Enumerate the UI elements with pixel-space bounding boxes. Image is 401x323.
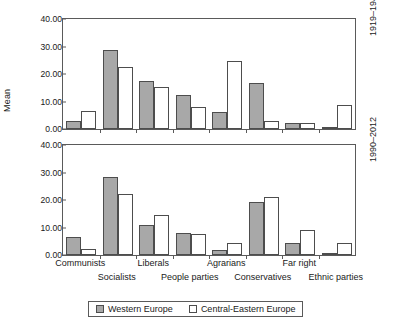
legend-swatch-icon-western	[96, 305, 104, 313]
bar-group	[136, 19, 173, 129]
bar	[139, 225, 154, 255]
bar	[66, 237, 81, 255]
x-axis-label: Far right	[282, 258, 316, 268]
bar	[81, 249, 96, 255]
y-tick-label: 30.00	[40, 42, 62, 52]
bar-group	[319, 19, 356, 129]
bars-bottom	[63, 145, 355, 255]
panel-label-top: 1919–1944	[368, 0, 378, 36]
bar-group	[209, 19, 246, 129]
bar-group	[63, 145, 100, 255]
x-axis-label: Ethnic parties	[308, 272, 363, 282]
bar-group	[63, 19, 100, 129]
bar	[264, 197, 279, 255]
bar	[154, 87, 169, 129]
legend-label-western: Western Europe	[108, 304, 173, 314]
bar	[81, 111, 96, 129]
bar	[66, 121, 81, 129]
bar	[249, 83, 264, 129]
x-axis-label: Agrarians	[207, 258, 246, 268]
bar	[118, 194, 133, 255]
y-axis-ticks-bottom: 0.0010.0020.0030.0040.00	[4, 144, 62, 256]
category-separator	[282, 129, 283, 133]
y-tick-label: 0.00	[45, 124, 62, 134]
category-separator	[319, 129, 320, 133]
bar-group	[246, 19, 283, 129]
category-separator	[100, 129, 101, 133]
category-separator	[173, 129, 174, 133]
y-tick-label: 10.00	[40, 97, 62, 107]
bar	[139, 81, 154, 129]
category-separator	[209, 129, 210, 133]
bar	[191, 107, 206, 129]
bar	[285, 243, 300, 255]
category-separator	[246, 129, 247, 133]
y-tick-label: 20.00	[40, 195, 62, 205]
bar	[322, 127, 337, 129]
bar-group	[136, 145, 173, 255]
panel-1990-2012: 0.0010.0020.0030.0040.00	[62, 144, 356, 256]
bar	[264, 121, 279, 129]
legend-item-central-eastern-europe: Central-Eastern Europe	[189, 304, 296, 314]
bar	[103, 177, 118, 255]
bar-group	[173, 145, 210, 255]
bar	[227, 61, 242, 129]
y-tick-label: 40.00	[40, 14, 62, 24]
bar-group	[100, 19, 137, 129]
bar-chart: Mean 0.0010.0020.0030.0040.00 1919–1944 …	[0, 0, 401, 323]
bar-group	[246, 145, 283, 255]
x-axis-label: Socialists	[98, 272, 136, 282]
y-tick-label: 40.00	[40, 140, 62, 150]
bar-group	[100, 145, 137, 255]
chart-legend: Western Europe Central-Eastern Europe	[88, 301, 303, 317]
bar-group	[282, 145, 319, 255]
bar	[227, 243, 242, 255]
bar	[322, 253, 337, 255]
bar	[176, 95, 191, 129]
bar	[154, 215, 169, 255]
bar	[212, 112, 227, 129]
y-tick-label: 30.00	[40, 168, 62, 178]
panel-1919-1944: 0.0010.0020.0030.0040.00	[62, 18, 356, 130]
bar-group	[209, 145, 246, 255]
bar	[285, 123, 300, 129]
panel-label-bottom: 1990–2012	[368, 117, 378, 162]
bar	[249, 202, 264, 255]
category-separator	[136, 129, 137, 133]
bar	[191, 234, 206, 255]
x-axis-label: People parties	[161, 272, 219, 282]
y-axis-ticks-top: 0.0010.0020.0030.0040.00	[4, 18, 62, 130]
legend-swatch-icon-central-eastern	[189, 305, 197, 313]
bar	[337, 105, 352, 129]
bar-group	[319, 145, 356, 255]
x-axis-label: Conservatives	[234, 272, 291, 282]
bar	[103, 50, 118, 129]
bar-group	[282, 19, 319, 129]
y-tick-label: 20.00	[40, 69, 62, 79]
bar	[337, 243, 352, 255]
y-tick-label: 10.00	[40, 223, 62, 233]
bar	[300, 230, 315, 255]
bar-group	[173, 19, 210, 129]
legend-label-central-eastern: Central-Eastern Europe	[201, 304, 296, 314]
bar	[176, 233, 191, 255]
bar	[300, 123, 315, 129]
legend-item-western-europe: Western Europe	[96, 304, 173, 314]
bar	[212, 250, 227, 256]
bar	[118, 67, 133, 129]
x-axis-label: Communists	[55, 258, 105, 268]
bars-top	[63, 19, 355, 129]
x-axis-label: Liberals	[137, 258, 169, 268]
x-axis-labels: CommunistsSocialistsLiberalsPeople parti…	[62, 258, 356, 290]
